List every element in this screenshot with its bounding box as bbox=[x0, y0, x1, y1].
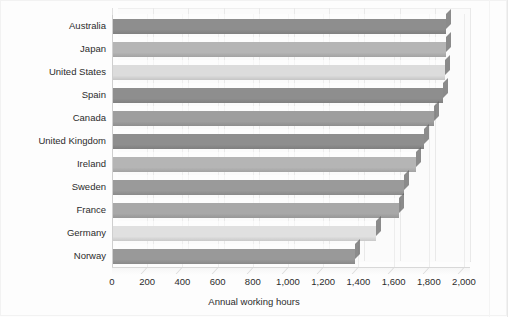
bar-side-face bbox=[443, 78, 448, 98]
bar-norway bbox=[112, 249, 355, 264]
y-label-united-kingdom: United Kingdom bbox=[2, 135, 106, 146]
bar-face bbox=[112, 88, 443, 103]
y-label-germany: Germany bbox=[2, 227, 106, 238]
y-label-australia: Australia bbox=[2, 20, 106, 31]
gridline-2000 bbox=[464, 14, 465, 267]
y-label-norway: Norway bbox=[2, 250, 106, 261]
bar-side-face bbox=[445, 55, 450, 75]
x-axis-tick-labels: 02004006008001,0001,2001,4001,6001,8002,… bbox=[0, 276, 508, 290]
bar-row bbox=[112, 129, 464, 152]
x-tick-label-1200: 1,200 bbox=[311, 276, 335, 287]
bar-side-face bbox=[376, 216, 381, 236]
x-tick-label-1400: 1,400 bbox=[347, 276, 371, 287]
y-label-sweden: Sweden bbox=[2, 181, 106, 192]
x-tick-label-1000: 1,000 bbox=[276, 276, 300, 287]
bar-face bbox=[112, 65, 445, 80]
bar-face bbox=[112, 42, 446, 57]
bar-row bbox=[112, 152, 464, 175]
x-tick-label-1800: 1,800 bbox=[417, 276, 441, 287]
y-label-spain: Spain bbox=[2, 89, 106, 100]
bar-sweden bbox=[112, 180, 404, 195]
bar-face bbox=[112, 19, 446, 34]
bar-row bbox=[112, 60, 464, 83]
bar-face bbox=[112, 249, 355, 264]
bar-side-face bbox=[399, 193, 404, 213]
bar-row bbox=[112, 83, 464, 106]
bar-side-face bbox=[446, 9, 451, 29]
bar-spain bbox=[112, 88, 443, 103]
x-tick-label-400: 400 bbox=[174, 276, 190, 287]
back-gridline-2000 bbox=[470, 8, 471, 261]
x-tick-label-800: 800 bbox=[245, 276, 261, 287]
bar-face bbox=[112, 111, 434, 126]
bar-side-face bbox=[434, 101, 439, 121]
bar-japan bbox=[112, 42, 446, 57]
y-label-canada: Canada bbox=[2, 112, 106, 123]
bar-face bbox=[112, 226, 376, 241]
bar-side-face bbox=[416, 147, 421, 167]
x-tick-label-2000: 2,000 bbox=[452, 276, 476, 287]
y-label-ireland: Ireland bbox=[2, 158, 106, 169]
y-axis-depth-edge bbox=[112, 8, 120, 15]
y-axis-line bbox=[112, 14, 113, 267]
bar-france bbox=[112, 203, 399, 218]
y-label-united-states: United States bbox=[2, 66, 106, 77]
x-tick-label-600: 600 bbox=[210, 276, 226, 287]
bar-row bbox=[112, 37, 464, 60]
x-tick-label-1600: 1,600 bbox=[382, 276, 406, 287]
bar-face bbox=[112, 203, 399, 218]
bar-row bbox=[112, 198, 464, 221]
x-tick-label-0: 0 bbox=[109, 276, 114, 287]
bar-side-face bbox=[404, 170, 409, 190]
figure-right-inner-edge bbox=[489, 0, 490, 317]
bar-side-face bbox=[446, 32, 451, 52]
bar-canada bbox=[112, 111, 434, 126]
bar-face bbox=[112, 157, 416, 172]
chart-container: AustraliaJapanUnited StatesSpainCanadaUn… bbox=[0, 0, 508, 317]
y-label-japan: Japan bbox=[2, 43, 106, 54]
y-axis-category-labels: AustraliaJapanUnited StatesSpainCanadaUn… bbox=[0, 14, 106, 267]
bar-side-face bbox=[355, 239, 360, 259]
bar-ireland bbox=[112, 157, 416, 172]
bar-row bbox=[112, 221, 464, 244]
bar-side-face bbox=[424, 124, 429, 144]
bar-row bbox=[112, 244, 464, 267]
bar-australia bbox=[112, 19, 446, 34]
bar-united-kingdom bbox=[112, 134, 424, 149]
bar-row bbox=[112, 175, 464, 198]
x-axis-title: Annual working hours bbox=[0, 296, 508, 307]
bar-germany bbox=[112, 226, 376, 241]
bar-row bbox=[112, 106, 464, 129]
x-tick-label-200: 200 bbox=[139, 276, 155, 287]
bar-row bbox=[112, 14, 464, 37]
y-label-france: France bbox=[2, 204, 106, 215]
plot-area bbox=[112, 14, 464, 267]
bar-united-states bbox=[112, 65, 445, 80]
bar-face bbox=[112, 134, 424, 149]
bar-face bbox=[112, 180, 404, 195]
